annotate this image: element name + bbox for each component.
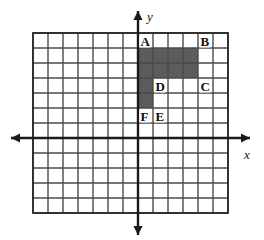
shaded-cell [168,63,183,78]
point-label-text: C [201,79,210,94]
axes-group: yx [11,9,250,235]
point-label-text: B [201,34,210,49]
x-axis-arrow-left-icon [11,133,20,142]
point-label-text: F [141,109,149,124]
point-label-text: D [156,79,165,94]
shaded-cell [153,48,168,63]
grid-lines-group [33,33,228,213]
shaded-cell [183,48,198,63]
shaded-cell [168,48,183,63]
shaded-cell [138,48,153,63]
point-label-text: E [156,109,165,124]
coordinate-grid-svg: yx ABCDEF [0,0,264,240]
shaded-cell [138,63,153,78]
shaded-cell [138,93,153,108]
y-axis-label: y [145,9,153,24]
point-label-F: F [140,109,151,124]
point-label-A: A [140,34,151,49]
point-label-D: D [155,79,166,94]
coordinate-grid-figure: yx ABCDEF [0,0,264,240]
x-axis-arrow-right-icon [241,133,250,142]
point-label-text: A [141,34,151,49]
x-axis-label: x [243,147,250,162]
point-label-C: C [200,79,211,94]
shaded-cell [183,63,198,78]
shaded-cell [138,78,153,93]
point-label-B: B [200,34,211,49]
point-label-E: E [155,109,166,124]
y-axis-arrow-up-icon [133,11,142,20]
y-axis-arrow-down-icon [133,226,142,235]
shaded-cell [153,63,168,78]
